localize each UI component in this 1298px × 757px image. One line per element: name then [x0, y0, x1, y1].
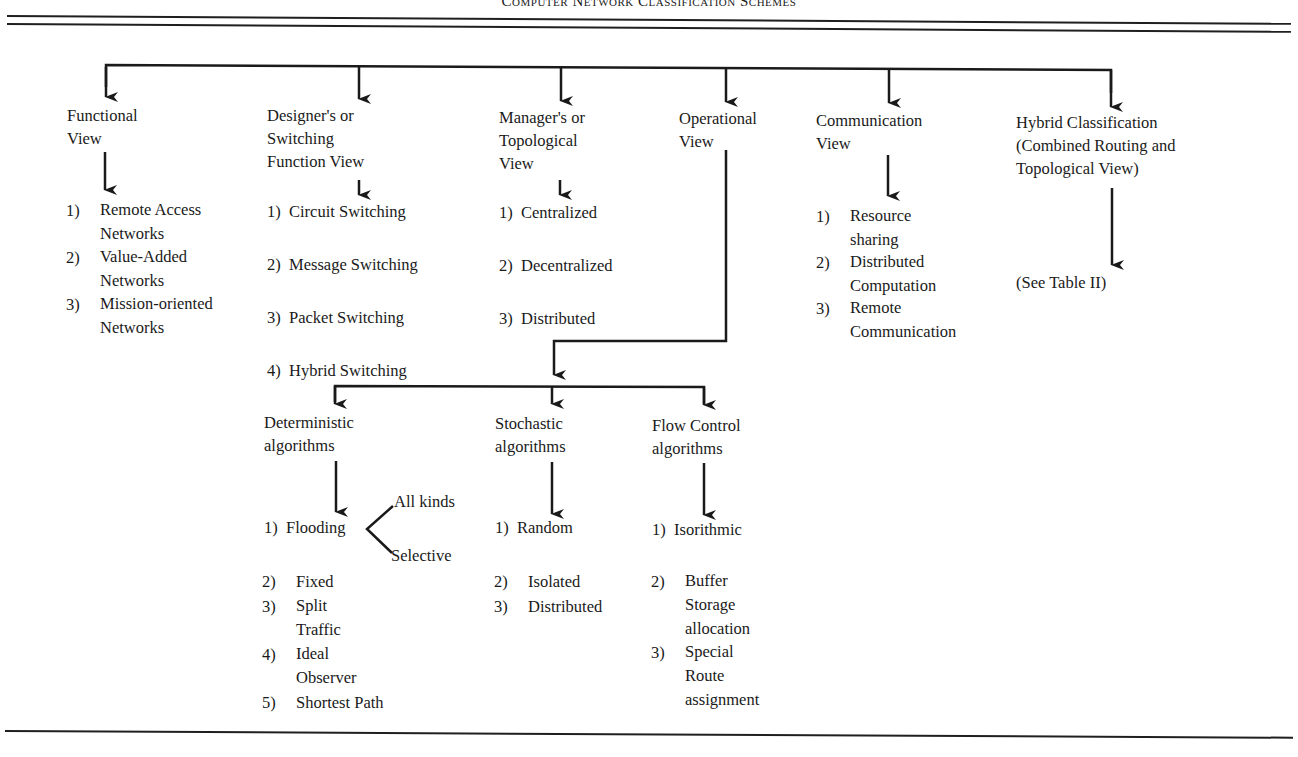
item-number: 1) — [495, 518, 509, 537]
item-number: 1) — [66, 198, 80, 224]
item-text: Shortest Path — [296, 691, 384, 715]
list-item: 1) Centralized — [499, 200, 597, 226]
item-number: 2) — [651, 569, 665, 595]
list-item: 5)Shortest Path — [262, 690, 384, 716]
item-text: Ideal Observer — [296, 642, 356, 690]
list-item: 2)Fixed — [262, 569, 384, 595]
list-item: 3)Split Traffic — [262, 594, 384, 643]
list-item: 2)Buffer Storage allocation — [651, 569, 759, 642]
list-item: 2) Message Switching — [267, 252, 418, 278]
deterministic-list: 2)Fixed 3)Split Traffic 4)Ideal Observer… — [262, 569, 384, 716]
item-text: Fixed — [296, 570, 334, 594]
flooding-branch-selective: Selective — [391, 546, 451, 566]
item-number: 3) — [262, 594, 276, 620]
list-item: 1)Remote Access Networks — [66, 198, 213, 247]
item-text: Buffer Storage allocation — [685, 569, 750, 641]
item-text: Distributed Computation — [850, 250, 936, 298]
list-item: 1)Resource sharing — [816, 204, 956, 253]
item-number: 3) — [267, 308, 281, 327]
item-text: Distributed — [528, 595, 602, 619]
list-item: 1) Random — [495, 518, 573, 538]
list-item: 2) Decentralized — [499, 253, 613, 279]
list-item: 1) Flooding — [264, 518, 346, 538]
item-number: 1) — [816, 204, 830, 230]
item-number: 2) — [494, 569, 508, 595]
item-number: 1) — [652, 520, 666, 539]
list-item: 3)Mission-oriented Networks — [66, 292, 213, 341]
item-text: Hybrid Switching — [289, 361, 407, 380]
list-item: 1) Circuit Switching — [267, 199, 406, 225]
item-text: Flooding — [286, 518, 346, 537]
flow-control-algorithms-label: Flow Control algorithms — [652, 414, 740, 460]
item-text: Isolated — [528, 570, 580, 594]
item-text: Centralized — [521, 203, 597, 222]
list-item: 3)Special Route assignment — [651, 640, 759, 713]
item-text: Message Switching — [289, 255, 418, 274]
item-text: Special Route assignment — [685, 640, 759, 712]
item-text: Split Traffic — [296, 594, 341, 642]
list-item: 2)Distributed Computation — [816, 250, 956, 299]
list-item: 2)Isolated — [494, 569, 602, 595]
item-text: Resource sharing — [850, 204, 911, 252]
item-text: Mission-oriented Networks — [100, 292, 213, 340]
item-text: Decentralized — [521, 256, 613, 275]
hybrid-classification-label: Hybrid Classification (Combined Routing … — [1016, 111, 1176, 180]
list-item: 3) Packet Switching — [267, 305, 404, 331]
item-number: 2) — [262, 569, 276, 595]
communication-view-label: Communication View — [816, 109, 922, 155]
item-number: 2) — [816, 250, 830, 276]
item-text: Isorithmic — [674, 520, 742, 539]
flooding-branch-lines — [367, 506, 393, 553]
deterministic-algorithms-label: Deterministic algorithms — [264, 411, 354, 457]
manager-view-label: Manager's or Topological View — [499, 106, 585, 175]
item-number: 4) — [262, 642, 276, 668]
item-number: 3) — [494, 594, 508, 620]
stochastic-list: 2)Isolated 3)Distributed — [494, 569, 602, 620]
item-number: 3) — [66, 292, 80, 318]
item-number: 2) — [66, 245, 80, 271]
item-text: Value-Added Networks — [100, 245, 187, 293]
item-text: Circuit Switching — [289, 202, 406, 221]
item-text: Remote Access Networks — [100, 198, 201, 246]
operational-view-label: Operational View — [679, 107, 757, 153]
list-item: 4) Hybrid Switching — [267, 358, 407, 384]
flooding-branch-all-kinds: All kinds — [394, 492, 455, 512]
item-number: 1) — [267, 202, 281, 221]
top-bus-line — [106, 65, 1111, 93]
item-number: 5) — [262, 690, 276, 716]
list-item: 3)Remote Communication — [816, 296, 956, 345]
list-item: 3) Distributed — [499, 306, 595, 332]
designer-view-label: Designer's or Switching Function View — [267, 104, 364, 173]
item-text: Distributed — [521, 309, 595, 328]
item-number: 2) — [499, 256, 513, 275]
item-number: 3) — [651, 640, 665, 666]
item-text: Packet Switching — [289, 308, 404, 327]
functional-view-label: Functional View — [67, 104, 138, 150]
functional-view-list: 1)Remote Access Networks 2)Value-Added N… — [66, 198, 213, 341]
item-text: Remote Communication — [850, 296, 956, 344]
list-item: 2)Value-Added Networks — [66, 245, 213, 294]
item-number: 4) — [267, 361, 281, 380]
item-text: Random — [517, 518, 573, 537]
item-number: 3) — [816, 296, 830, 322]
list-item: 3)Distributed — [494, 594, 602, 620]
item-number: 3) — [499, 309, 513, 328]
item-number: 1) — [264, 518, 278, 537]
list-item: 4)Ideal Observer — [262, 642, 384, 691]
item-number: 1) — [499, 203, 513, 222]
see-table-note: (See Table II) — [1016, 271, 1106, 294]
item-number: 2) — [267, 255, 281, 274]
stochastic-algorithms-label: Stochastic algorithms — [495, 412, 566, 458]
communication-view-list: 1)Resource sharing 2)Distributed Computa… — [816, 204, 956, 345]
flow-control-list: 2)Buffer Storage allocation 3)Special Ro… — [651, 569, 759, 713]
list-item: 1) Isorithmic — [652, 520, 742, 540]
